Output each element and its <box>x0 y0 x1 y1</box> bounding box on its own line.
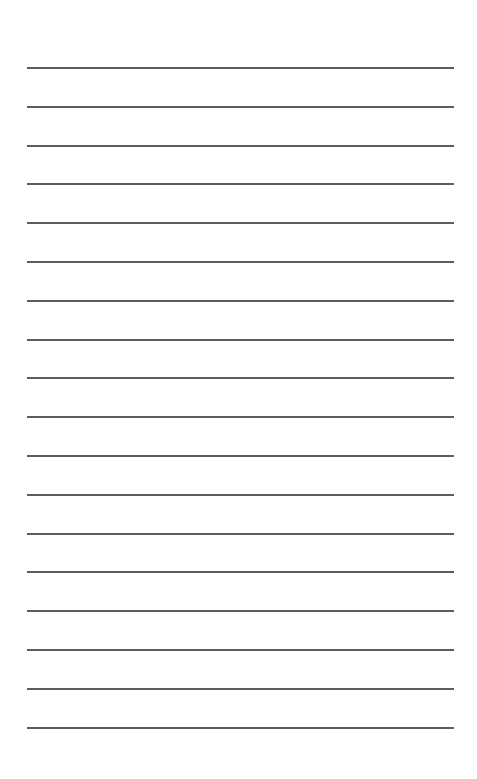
ruled-line <box>27 261 454 263</box>
lined-paper-page <box>0 0 477 779</box>
ruled-line <box>27 610 454 612</box>
ruled-line <box>27 222 454 224</box>
ruled-line <box>27 416 454 418</box>
ruled-line <box>27 649 454 651</box>
ruled-line <box>27 183 454 185</box>
ruled-line <box>27 494 454 496</box>
ruled-line <box>27 571 454 573</box>
ruled-line <box>27 688 454 690</box>
ruled-line <box>27 339 454 341</box>
ruled-line <box>27 67 454 69</box>
ruled-line <box>27 145 454 147</box>
ruled-line <box>27 455 454 457</box>
ruled-line <box>27 106 454 108</box>
ruled-line <box>27 377 454 379</box>
ruled-line <box>27 727 454 729</box>
ruled-line <box>27 300 454 302</box>
ruled-line <box>27 533 454 535</box>
